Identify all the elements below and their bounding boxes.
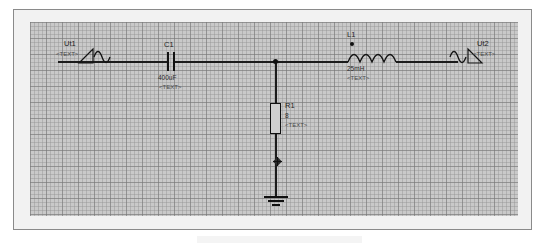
wire-node-to-r1 — [275, 61, 277, 104]
component-ref-ut2: Ut2 — [477, 40, 489, 48]
component-text-r1: <TEXT> — [285, 121, 307, 129]
node-probe-marker[interactable] — [273, 152, 282, 161]
ground-bar-3 — [272, 204, 280, 206]
inductor-polarity-dot — [350, 42, 354, 46]
capacitor-plate-left — [167, 52, 169, 71]
component-text-ut1: <TEXT> — [56, 50, 78, 58]
component-symbol-inductor-l1[interactable] — [348, 50, 396, 63]
schematic-canvas[interactable]: Ut1 <TEXT> C1 400uF <TEXT> L1 25mH <TEXT… — [30, 22, 518, 216]
component-value-l1: 25mH — [347, 65, 364, 73]
ground-bar-1 — [264, 196, 288, 198]
component-symbol-resistor-r1[interactable] — [270, 103, 281, 134]
wire-node-to-l1 — [275, 61, 348, 63]
component-ref-ut1: Ut1 — [64, 40, 76, 48]
component-value-r1: 8 — [285, 112, 289, 120]
wire-l1-to-source2 — [396, 61, 458, 63]
component-text-ut2: <TEXT> — [473, 50, 495, 58]
component-value-c1: 400uF — [158, 74, 176, 82]
component-text-l1: <TEXT> — [347, 74, 369, 82]
component-text-c1: <TEXT> — [159, 83, 181, 91]
wire-c1-to-node — [173, 61, 277, 63]
schematic-editor-window: Ut1 <TEXT> C1 400uF <TEXT> L1 25mH <TEXT… — [0, 0, 546, 246]
junction-node-dot — [273, 59, 278, 64]
component-symbol-ac-source-ut1[interactable] — [76, 44, 124, 66]
bottom-panel-strip — [197, 236, 362, 243]
component-ref-l1: L1 — [347, 31, 355, 39]
component-ref-c1: C1 — [164, 41, 174, 49]
component-ref-r1: R1 — [285, 102, 295, 110]
capacitor-plate-right — [173, 52, 175, 71]
ground-bar-2 — [268, 200, 284, 202]
